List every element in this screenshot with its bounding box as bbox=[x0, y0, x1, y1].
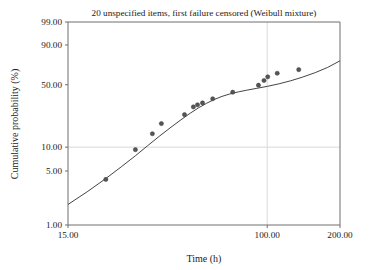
weibull-probability-plot: 20 unspecified items, first failure cens… bbox=[0, 0, 374, 270]
y-tick-label: 50.00 bbox=[41, 80, 62, 90]
y-tick-label: 99.00 bbox=[41, 17, 62, 27]
data-point bbox=[275, 71, 279, 75]
data-point bbox=[104, 177, 108, 181]
data-point bbox=[297, 68, 301, 72]
data-point bbox=[211, 97, 215, 101]
y-tick-label: 10.00 bbox=[41, 142, 62, 152]
data-point bbox=[191, 105, 195, 109]
data-point bbox=[159, 122, 163, 126]
data-point bbox=[150, 132, 154, 136]
chart-title: 20 unspecified items, first failure cens… bbox=[92, 8, 317, 18]
y-tick-label: 90.00 bbox=[41, 40, 62, 50]
data-point bbox=[266, 75, 270, 79]
data-point bbox=[182, 113, 186, 117]
data-point bbox=[256, 83, 260, 87]
y-tick-label: 5.00 bbox=[46, 166, 62, 176]
data-point bbox=[200, 101, 204, 105]
y-axis-label: Cumulative probability (%) bbox=[9, 69, 21, 180]
y-tick-label: 1.00 bbox=[46, 220, 62, 230]
x-tick-label: 100.00 bbox=[255, 230, 281, 240]
x-tick-label: 15.00 bbox=[58, 230, 79, 240]
data-point bbox=[262, 78, 266, 82]
x-axis-label: Time (h) bbox=[187, 253, 222, 265]
x-tick-label: 200.00 bbox=[327, 230, 353, 240]
data-point bbox=[195, 103, 199, 107]
data-point bbox=[133, 148, 137, 152]
data-point bbox=[231, 90, 235, 94]
chart-root: 20 unspecified items, first failure cens… bbox=[0, 0, 374, 270]
